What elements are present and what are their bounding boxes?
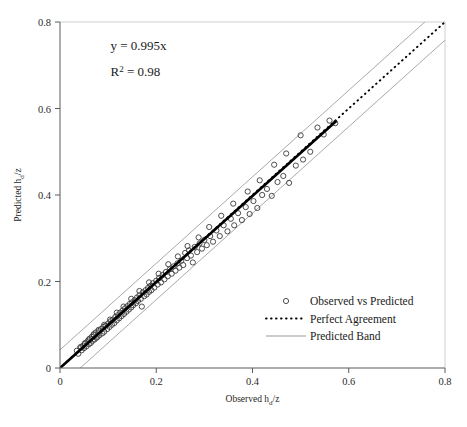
y-axis-title-text: Predicted hd/z xyxy=(13,168,26,221)
r-squared-base: R xyxy=(111,64,120,79)
chart-legend: Observed vs PredictedPerfect AgreementPr… xyxy=(266,295,414,342)
y-tick-label: 0.2 xyxy=(38,277,51,288)
y-axis-title-tail: /z xyxy=(13,168,23,175)
data-point-marker xyxy=(251,198,256,203)
data-point-marker xyxy=(207,224,212,229)
data-point-marker xyxy=(175,254,180,259)
x-axis-ticks: 00.20.40.60.8 xyxy=(57,368,451,387)
x-tick-label: 0 xyxy=(57,376,62,387)
chart-annotations: y = 0.995xR2 = 0.98 xyxy=(111,38,168,79)
data-point-marker xyxy=(275,179,280,184)
data-point-marker xyxy=(217,233,222,238)
data-point-marker xyxy=(139,304,144,309)
data-point-marker xyxy=(231,201,236,206)
data-point-marker xyxy=(327,118,332,123)
data-point-marker xyxy=(264,186,269,191)
x-tick-label: 0.6 xyxy=(342,376,355,387)
data-point-marker xyxy=(293,163,298,168)
x-tick-label: 0.8 xyxy=(438,376,451,387)
data-point-marker xyxy=(219,213,224,218)
data-point-marker xyxy=(245,189,250,194)
data-point-marker xyxy=(166,262,171,267)
series-layer xyxy=(60,4,445,386)
data-point-marker xyxy=(284,151,289,156)
data-point-marker xyxy=(286,180,291,185)
r-squared-annotation: R2 = 0.98 xyxy=(111,64,161,80)
scatter-chart: 00.20.40.60.800.20.40.60.8Observed hd/zP… xyxy=(0,0,467,427)
y-axis-ticks: 00.20.40.60.8 xyxy=(38,17,60,374)
data-point-marker xyxy=(196,235,201,240)
y-axis-title: Predicted hd/z xyxy=(13,168,26,221)
legend-item[interactable]: Perfect Agreement xyxy=(266,313,397,326)
data-point-marker xyxy=(300,157,305,162)
x-axis-title-base: Observed h xyxy=(226,394,270,404)
data-point-marker xyxy=(257,178,262,183)
data-point-marker xyxy=(204,243,209,248)
y-tick-label: 0.4 xyxy=(38,190,52,201)
data-point-marker xyxy=(260,192,265,197)
legend-label: Predicted Band xyxy=(310,330,381,342)
data-point-marker xyxy=(281,173,286,178)
legend-label: Perfect Agreement xyxy=(310,313,397,326)
x-axis-title-tail: /z xyxy=(273,394,280,404)
data-point-marker xyxy=(210,239,215,244)
data-point-marker xyxy=(272,162,277,167)
x-axis-title-text: Observed hd/z xyxy=(226,394,280,407)
y-axis-title-base: Predicted h xyxy=(13,178,23,221)
x-axis-title: Observed hd/z xyxy=(226,394,280,407)
equation-annotation: y = 0.995x xyxy=(111,38,168,53)
legend-item[interactable]: Observed vs Predicted xyxy=(283,295,413,307)
r-squared-tail: = 0.98 xyxy=(124,64,161,79)
data-point-marker xyxy=(199,246,204,251)
legend-item[interactable]: Predicted Band xyxy=(266,330,381,342)
data-point-marker xyxy=(181,262,186,267)
data-point-marker xyxy=(315,125,320,130)
regression-line xyxy=(60,121,336,368)
data-point-marker xyxy=(308,149,313,154)
y-tick-label: 0 xyxy=(46,363,51,374)
data-point-marker xyxy=(190,260,195,265)
legend-label: Observed vs Predicted xyxy=(310,295,414,307)
data-point-marker xyxy=(255,205,260,210)
data-point-marker xyxy=(195,249,200,254)
y-tick-label: 0.8 xyxy=(38,17,51,28)
x-tick-label: 0.4 xyxy=(246,376,260,387)
data-point-marker xyxy=(129,296,134,301)
x-tick-label: 0.2 xyxy=(150,376,163,387)
y-tick-label: 0.6 xyxy=(38,104,51,115)
data-point-marker xyxy=(225,229,230,234)
legend-marker-open-circle xyxy=(283,298,288,303)
data-point-marker xyxy=(239,217,244,222)
chart-canvas: 00.20.40.60.800.20.40.60.8Observed hd/zP… xyxy=(0,0,467,427)
data-point-marker xyxy=(232,223,237,228)
